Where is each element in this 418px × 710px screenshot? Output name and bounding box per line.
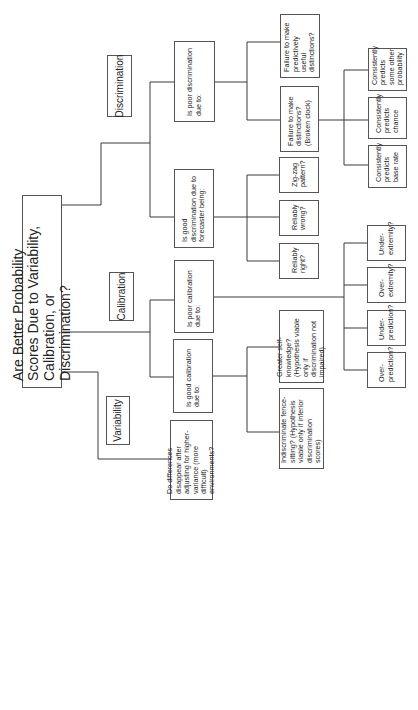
node-under-prediction-text: Under-prediction? xyxy=(378,305,395,340)
node-fence-sitting: Indiscriminate fence-sitting? (Hypothesi… xyxy=(279,388,324,469)
category-variability: Variability xyxy=(106,396,130,445)
node-zig-zag-text: Zig-zag pattern? xyxy=(291,161,308,187)
node-reliably-right: Reliably right? xyxy=(279,243,319,279)
connector-cal-bar xyxy=(150,300,173,377)
node-reliably-right-text: Reliably right? xyxy=(291,247,308,273)
node-good-calibration: Is good calibration due to: xyxy=(173,339,213,413)
node-over-prediction-text: Over-prediction? xyxy=(378,347,395,382)
category-discrimination: Discrimination xyxy=(107,55,132,117)
node-zig-zag: Zig-zag pattern? xyxy=(279,157,319,193)
node-fence-sitting-text: Indiscriminate fence-sitting? (Hypothesi… xyxy=(280,394,322,463)
connector-title-to-discrimination xyxy=(62,143,150,205)
connector-disc-bar xyxy=(150,82,174,217)
category-variability-label: Variability xyxy=(112,399,124,442)
node-over-extremity: Over-extremity? xyxy=(367,267,406,303)
diagram-title: Are Better Probability Scores Due to Var… xyxy=(22,195,62,388)
node-under-extremity-text: Under-extremity? xyxy=(378,222,395,255)
category-calibration: Calibration xyxy=(109,272,134,321)
node-predicts-base-rate-text: Consistently predicts base rate xyxy=(375,143,400,182)
decision-tree-diagram: Are Better Probability Scores Due to Var… xyxy=(0,0,418,710)
node-good-discrimination: Is good discrimination due to forecaster… xyxy=(174,169,214,248)
node-over-prediction: Over-prediction? xyxy=(367,352,406,388)
node-broken-clock: Failure to make distinctions? (Broken cl… xyxy=(280,86,319,152)
node-broken-clock-text: Failure to make distinctions? (Broken cl… xyxy=(287,92,312,146)
node-variability-question: Do differences disappear after adjusting… xyxy=(170,420,213,500)
node-predicts-base-rate: Consistently predicts base rate xyxy=(368,145,407,188)
node-variability-question-text: Do differences disappear after adjusting… xyxy=(166,426,217,494)
node-good-discrimination-text: Is good discrimination due to forecaster… xyxy=(181,175,206,242)
node-predictively-useful: Failure to make predictively useful dist… xyxy=(280,14,320,78)
node-self-knowledge-text: Greater self-knowledge? (Hypothesis viab… xyxy=(276,316,327,377)
node-reliably-wrong-text: Reliably wrong? xyxy=(291,204,308,230)
node-under-extremity: Under-extremity? xyxy=(367,225,406,261)
node-other-probability-text: Consistently predicts some other probabi… xyxy=(371,46,405,85)
node-reliably-wrong: Reliably wrong? xyxy=(279,200,319,236)
node-poor-discrimination: Is poor discrimination due to: xyxy=(174,41,215,122)
node-other-probability: Consistently predicts some other probabi… xyxy=(368,48,407,91)
category-discrimination-label: Discrimination xyxy=(114,55,126,118)
node-self-knowledge: Greater self-knowledge? (Hypothesis viab… xyxy=(279,310,324,383)
category-calibration-label: Calibration xyxy=(116,273,128,321)
node-poor-calibration-text: Is poor calibration due to: xyxy=(186,266,203,327)
node-predicts-chance: Consistently predicts chance xyxy=(368,97,407,139)
node-under-prediction: Under-prediction? xyxy=(367,310,406,346)
node-predicts-chance-text: Consistently predicts chance xyxy=(375,94,400,133)
node-poor-discrimination-text: Is poor discrimination due to: xyxy=(186,47,203,116)
node-predictively-useful-text: Failure to make predictively useful dist… xyxy=(283,20,317,72)
node-good-calibration-text: Is good calibration due to: xyxy=(185,345,202,407)
node-poor-calibration: Is poor calibration due to: xyxy=(174,260,214,333)
node-over-extremity-text: Over-extremity? xyxy=(378,264,395,297)
title-text: Are Better Probability Scores Due to Var… xyxy=(11,202,74,381)
